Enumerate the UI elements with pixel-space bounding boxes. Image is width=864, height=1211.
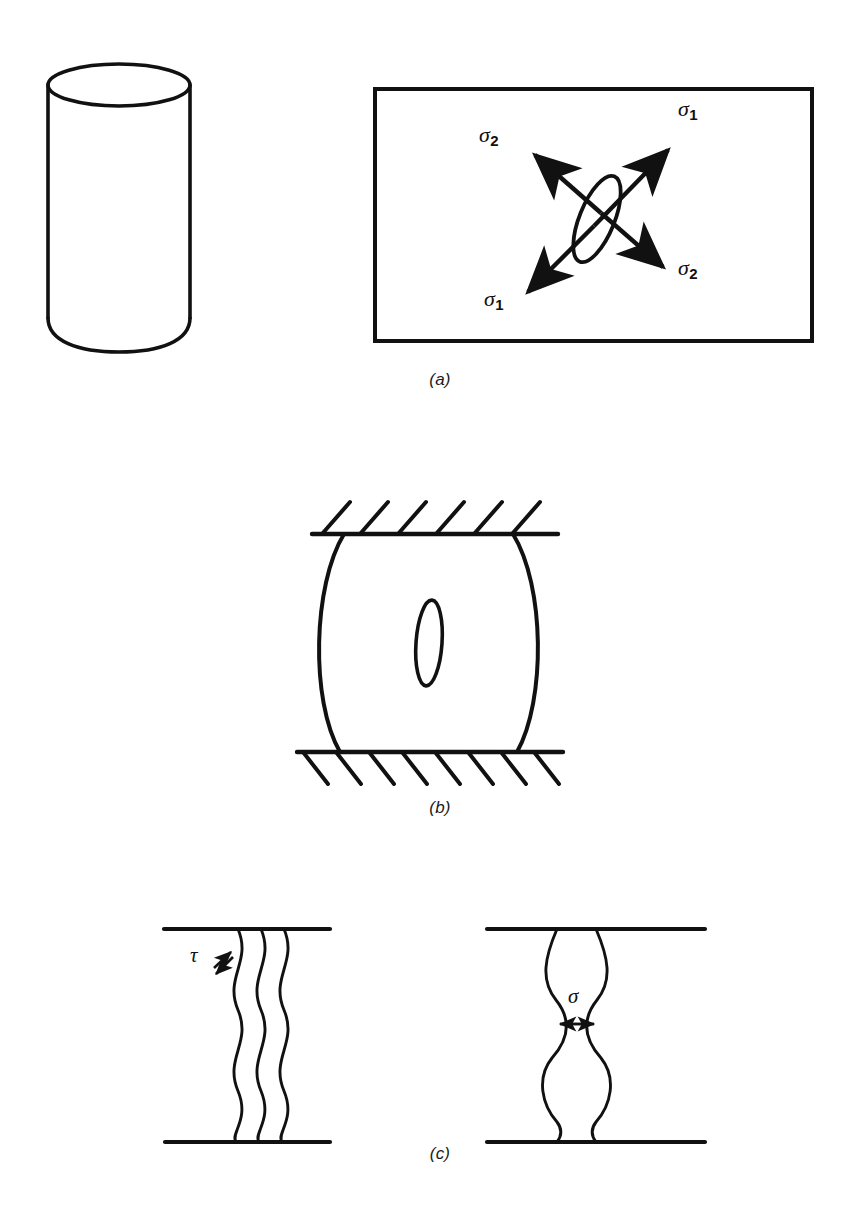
hatch-mark [360,502,388,534]
sigma-subscript: 2 [490,132,499,149]
hatch-mark [322,502,350,534]
hatch-mark [501,752,526,784]
hatch-mark [468,752,493,784]
barrelled-specimen [319,534,538,752]
stress-label-sigma1-top: σ1 [678,98,698,123]
sigma-glyph: σ [479,122,490,147]
sigma1-arrow-down-left [528,226,594,292]
hatch-mark [534,752,559,784]
shear-stress-label-tau: τ [190,945,198,966]
stress-label-sigma2-top: σ2 [479,124,499,149]
tensile-mechanism-sketch [487,929,705,1142]
stress-label-sigma1-bottom: σ1 [484,288,504,313]
sigma-glyph: σ [484,286,495,311]
specimen-left-side [319,534,344,752]
top-platen-hatching [322,502,540,534]
panel-label-a: (a) [400,370,480,390]
wavy-line [280,929,288,1142]
hatch-mark [398,502,426,534]
panel-c-drawing [164,929,705,1142]
hatch-mark [402,752,427,784]
principal-stress-arrows [528,150,668,292]
sigma-subscript: 1 [689,106,698,123]
cylinder-specimen [48,64,190,352]
sigma2-arrow-down-right [601,213,663,267]
hatch-mark [303,752,328,784]
hatch-mark [435,752,460,784]
hatch-mark [436,502,464,534]
figure-drawing [0,0,864,1211]
axial-crack-ellipse [413,599,445,687]
hatch-mark [336,752,361,784]
cylinder-bottom-curve [48,318,190,352]
wavy-line [234,929,242,1142]
panel-b-drawing [297,502,563,784]
bottom-platen-hatching [303,752,559,784]
stress-element-rectangle [375,89,812,341]
sigma-subscript: 2 [689,265,698,282]
panel-label-b: (b) [400,798,480,818]
wavy-line [543,929,567,1142]
cylinder-top-ellipse [48,64,190,106]
normal-stress-label-sigma: σ [568,986,578,1007]
sigma-subscript: 1 [495,296,504,313]
shear-double-arrow [214,952,233,974]
tensile-wavy-lines [543,929,611,1142]
wavy-line [587,929,611,1142]
hatch-mark [512,502,540,534]
shear-wavy-lines [234,929,288,1142]
hatch-mark [369,752,394,784]
hatch-mark [474,502,502,534]
sigma-glyph: σ [678,255,689,280]
sigma-glyph: σ [678,96,689,121]
wavy-line [257,929,265,1142]
figure-root: σ1 σ2 σ2 σ1 τ σ (a) (b) (c) [0,0,864,1211]
stress-label-sigma2-bottom: σ2 [678,257,698,282]
cropped-caption-remnant [14,1196,850,1211]
sigma2-arrow-up-left [535,155,601,213]
inclined-elliptical-flaw [564,170,631,268]
panel-label-c: (c) [400,1144,480,1164]
shear-mechanism-sketch [164,929,330,1142]
specimen-right-side [513,534,538,752]
